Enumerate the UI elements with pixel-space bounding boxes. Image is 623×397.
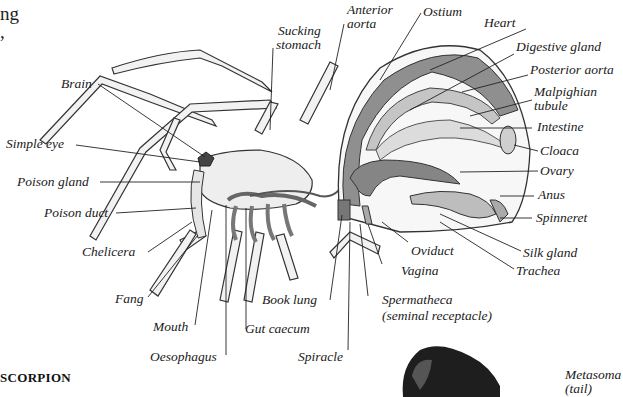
- label-anterior-aorta: Anterior: [347, 3, 393, 17]
- label-mouth: Mouth: [153, 320, 188, 334]
- label-malpighian-tubule-line2: tubule: [534, 99, 568, 113]
- label-oviduct: Oviduct: [411, 244, 454, 258]
- label-ovary: Ovary: [540, 164, 574, 178]
- label-heart: Heart: [484, 16, 516, 30]
- label-vagina: Vagina: [401, 264, 439, 278]
- label-fang: Fang: [115, 292, 144, 306]
- section-heading-scorpion: SCORPION: [0, 370, 71, 386]
- label-malpighian-tubule: Malpighian: [534, 85, 597, 99]
- label-spermatheca-line2: (seminal receptacle): [382, 309, 492, 323]
- abdomen: [338, 46, 530, 232]
- label-digestive-gland: Digestive gland: [516, 40, 601, 54]
- scorpion-photo-fragment: [403, 346, 500, 397]
- label-silk-gland: Silk gland: [523, 246, 577, 260]
- label-spinneret: Spinneret: [536, 211, 587, 225]
- label-poison-duct: Poison duct: [44, 206, 108, 220]
- label-intestine: Intestine: [537, 120, 584, 134]
- label-metasoma: Metasoma: [565, 368, 621, 382]
- label-cloaca: Cloaca: [540, 144, 579, 158]
- label-anus: Anus: [538, 188, 565, 202]
- label-chelicera: Chelicera: [82, 245, 135, 259]
- label-book-lung: Book lung: [262, 293, 317, 307]
- label-sucking-stomach: Sucking: [278, 24, 321, 38]
- label-spiracle: Spiracle: [298, 350, 343, 364]
- label-oesophagus: Oesophagus: [150, 350, 217, 364]
- label-trachea: Trachea: [516, 264, 560, 278]
- label-spermatheca: Spermatheca: [382, 293, 452, 307]
- label-ostium: Ostium: [423, 5, 462, 19]
- label-poison-gland: Poison gland: [17, 175, 89, 189]
- label-brain: Brain: [61, 77, 92, 91]
- label-simple-eye: Simple eye: [6, 137, 64, 151]
- label-anterior-aorta-line2: aorta: [347, 17, 376, 31]
- label-metasoma-line2: (tail): [565, 382, 592, 396]
- cephalothorax: [191, 150, 350, 242]
- label-sucking-stomach-line2: stomach: [276, 38, 321, 52]
- label-gut-caecum: Gut caecum: [245, 322, 310, 336]
- spider-anatomy-illustration: [0, 0, 623, 397]
- label-posterior-aorta: Posterior aorta: [530, 63, 614, 77]
